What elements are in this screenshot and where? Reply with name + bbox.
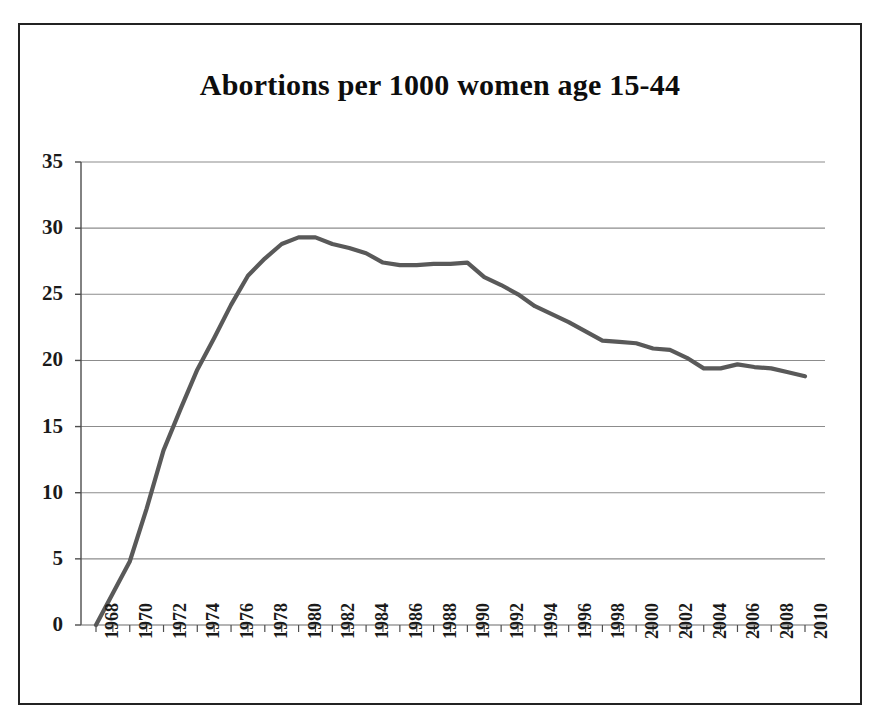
- x-axis-tick-label: 1970: [137, 603, 155, 639]
- data-series-line: [96, 237, 805, 625]
- y-axis-ticks: [75, 162, 81, 625]
- x-axis-tick-label: 2002: [677, 603, 695, 639]
- y-axis-tick-label: 30: [19, 217, 63, 238]
- x-axis-tick-label: 2004: [711, 603, 729, 639]
- x-axis-tick-label: 1998: [609, 603, 627, 639]
- y-axis-tick-label: 25: [19, 283, 63, 304]
- y-axis-tick-label: 35: [19, 151, 63, 172]
- x-axis-tick-label: 1994: [542, 603, 560, 639]
- y-axis-tick-label: 20: [19, 349, 63, 370]
- x-axis-tick-label: 1988: [441, 603, 459, 639]
- x-axis-tick-label: 1976: [238, 603, 256, 639]
- x-axis-tick-label: 1984: [373, 603, 391, 639]
- x-axis-tick-label: 1986: [407, 603, 425, 639]
- y-axis-tick-label: 5: [19, 548, 63, 569]
- axis-lines: [81, 162, 825, 625]
- y-axis-tick-label: 0: [19, 614, 63, 635]
- x-axis-tick-label: 1990: [474, 603, 492, 639]
- x-axis-tick-label: 1978: [272, 603, 290, 639]
- x-axis-tick-label: 1974: [204, 603, 222, 639]
- x-axis-tick-label: 2000: [643, 603, 661, 639]
- x-axis-tick-label: 2010: [812, 603, 830, 639]
- x-axis-tick-label: 1996: [576, 603, 594, 639]
- gridlines: [81, 162, 825, 559]
- x-axis-tick-label: 1980: [306, 603, 324, 639]
- x-axis-tick-label: 1972: [171, 603, 189, 639]
- chart-figure: Abortions per 1000 women age 15-44 05101…: [0, 0, 881, 727]
- y-axis-tick-label: 10: [19, 482, 63, 503]
- x-axis-tick-label: 1992: [508, 603, 526, 639]
- x-axis-tick-label: 1982: [339, 603, 357, 639]
- x-axis-tick-label: 2006: [744, 603, 762, 639]
- x-axis-tick-label: 1968: [103, 603, 121, 639]
- x-axis-tick-label: 2008: [778, 603, 796, 639]
- y-axis-tick-label: 15: [19, 416, 63, 437]
